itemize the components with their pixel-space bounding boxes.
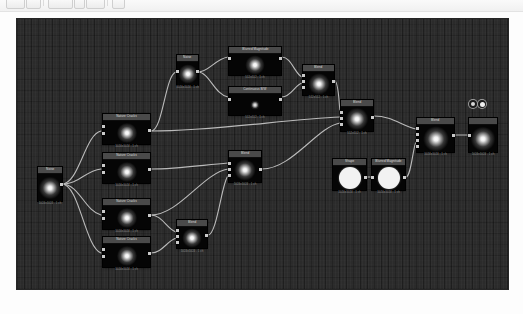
output-port[interactable]: [196, 70, 199, 73]
input-port-3[interactable]: [228, 174, 231, 177]
node-title-bar: Blend: [417, 118, 454, 125]
input-port-3[interactable]: [302, 86, 305, 89]
toolbar-zoom-button[interactable]: [86, 0, 105, 9]
input-port-1[interactable]: [228, 98, 231, 101]
input-port-1[interactable]: [102, 248, 105, 251]
node-caption: 1024x1024 - 1 ch: [338, 191, 361, 194]
continuous-bw-node[interactable]: Continuous B/W 512x512 - 1 ch: [229, 87, 281, 115]
node-title-label: Noise: [183, 56, 191, 59]
output-port[interactable]: [148, 129, 151, 132]
app-root: Noise 1024x1024 - 1 ch Nature Cracks 102…: [0, 0, 523, 314]
nature-cracks-node-c[interactable]: Nature Cracks 1024x1024 - 1 ch: [103, 199, 150, 229]
input-port-1[interactable]: [228, 162, 231, 165]
node-title-bar: Blurred Magnitude: [229, 47, 281, 54]
input-port-2[interactable]: [302, 80, 305, 83]
toolbar-undo-button[interactable]: [48, 0, 73, 9]
node-preview: [103, 160, 150, 183]
input-port-1[interactable]: [416, 127, 419, 130]
input-port-3[interactable]: [176, 241, 179, 244]
input-port-1[interactable]: [302, 74, 305, 77]
node-preview: [103, 121, 150, 144]
nature-cracks-node-b[interactable]: Nature Cracks 1024x1024 - 1 ch: [103, 153, 150, 183]
toolbar-open-button[interactable]: [6, 0, 25, 9]
node-title-label: Blend: [353, 101, 361, 104]
blurred-magnitude-node[interactable]: Blurred Magnitude 512x512 - 1 ch: [229, 47, 281, 75]
input-port-1[interactable]: [468, 134, 471, 137]
input-port-1[interactable]: [102, 164, 105, 167]
node-graph-canvas[interactable]: Noise 1024x1024 - 1 ch Nature Cracks 102…: [17, 19, 508, 289]
toolbar-redo-button[interactable]: [74, 0, 85, 9]
node-caption: 1024x1024 - 1 ch: [234, 183, 257, 186]
preview-blob: [183, 228, 202, 247]
node-caption: 1024x1024 - 1 ch: [115, 145, 138, 148]
blend-node-top[interactable]: Blend 512x512 - 1 ch: [303, 65, 334, 95]
shape-node[interactable]: Shape 1024x1024 - 1 ch: [333, 159, 366, 190]
input-port-2[interactable]: [228, 168, 231, 171]
output-port[interactable]: [364, 176, 367, 179]
node-preview: [177, 227, 207, 248]
input-port-2[interactable]: [102, 132, 105, 135]
input-port-2[interactable]: [176, 235, 179, 238]
input-port-2[interactable]: [340, 117, 343, 120]
output-port[interactable]: [259, 168, 262, 171]
node-preview: [417, 125, 454, 152]
node-title-bar: Blurred Magnitude: [372, 159, 405, 166]
preview-blob: [117, 123, 137, 143]
output-port[interactable]: [452, 134, 455, 137]
nature-cracks-node-d[interactable]: Nature Cracks 1024x1024 - 1 ch: [103, 237, 150, 267]
output-port[interactable]: [148, 252, 151, 255]
output-port[interactable]: [60, 183, 63, 186]
node-preview: [372, 166, 405, 190]
input-port-1[interactable]: [340, 111, 343, 114]
output-port[interactable]: [148, 214, 151, 217]
preview-blob: [117, 208, 137, 228]
node-caption: 1024x1024 - 1 ch: [115, 268, 138, 271]
input-port-3[interactable]: [416, 139, 419, 142]
preview-blob: [339, 167, 361, 189]
output-port[interactable]: [279, 98, 282, 101]
input-port-4[interactable]: [416, 145, 419, 148]
toolbar-divider-1: [43, 0, 44, 6]
blend-node-mid[interactable]: Blend 512x512 - 1 ch: [341, 100, 373, 131]
input-port-2[interactable]: [416, 133, 419, 136]
preview-blob: [346, 108, 368, 130]
output-port[interactable]: [148, 168, 151, 171]
node-title-label: Shape: [345, 160, 354, 163]
toolbar-save-button[interactable]: [26, 0, 41, 9]
preview-blob: [235, 160, 256, 181]
toolbar-fit-button[interactable]: [112, 0, 125, 9]
blend-node-final[interactable]: Blend 1024x1024 - 1 ch: [417, 118, 454, 152]
node-preview: [341, 107, 373, 131]
preview-blob: [39, 177, 61, 199]
output-port[interactable]: [279, 57, 282, 60]
input-port-2[interactable]: [102, 217, 105, 220]
input-port-2[interactable]: [102, 171, 105, 174]
input-port-3[interactable]: [340, 123, 343, 126]
input-port-1[interactable]: [228, 57, 231, 60]
output-port[interactable]: [332, 80, 335, 83]
output-node[interactable]: 1024x1024 - 1 ch: [469, 118, 497, 152]
input-port-1[interactable]: [102, 210, 105, 213]
node-title-label: Continuous B/W: [243, 88, 266, 91]
output-port[interactable]: [371, 116, 374, 119]
output-port[interactable]: [205, 234, 208, 237]
viewer-badge-b[interactable]: [478, 100, 486, 108]
viewer-badge-row[interactable]: [469, 100, 486, 108]
node-caption: 512x512 - 1 ch: [347, 132, 366, 135]
input-port-1[interactable]: [176, 229, 179, 232]
output-port[interactable]: [403, 176, 406, 179]
blurred-magnitude-node-2[interactable]: Blurred Magnitude 1024x1024 - 1 ch: [372, 159, 405, 190]
input-port-1[interactable]: [102, 125, 105, 128]
node-title-label: Blurred Magnitude: [375, 160, 401, 163]
source-node[interactable]: Noise 1024x1024 - 1 ch: [38, 167, 62, 201]
blend-node-lowleft[interactable]: Blend 1024x1024 - 1 ch: [177, 220, 207, 248]
input-port-2[interactable]: [102, 255, 105, 258]
input-port-1[interactable]: [371, 176, 374, 179]
node-preview: [229, 158, 261, 182]
input-port-1[interactable]: [176, 70, 179, 73]
node-preview: [177, 62, 198, 85]
nature-cracks-node-a[interactable]: Nature Cracks 1024x1024 - 1 ch: [103, 114, 150, 144]
blend-node-left[interactable]: Blend 1024x1024 - 1 ch: [229, 151, 261, 182]
viewer-badge-a[interactable]: [469, 100, 477, 108]
noise-node-a[interactable]: Noise 1024x1024 - 1 ch: [177, 55, 198, 85]
